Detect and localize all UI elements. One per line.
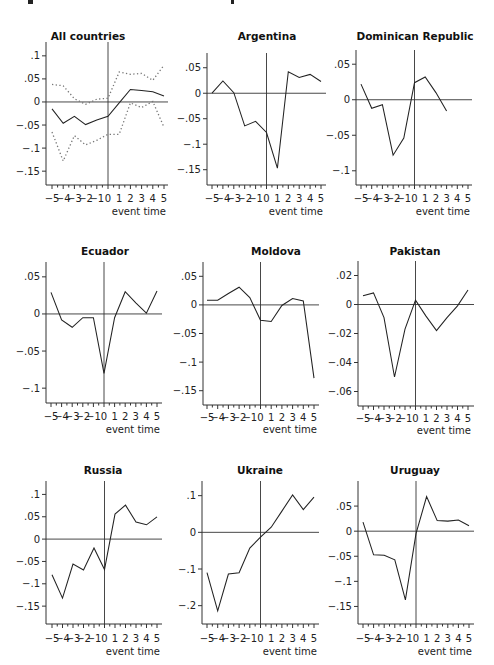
y-tick-label: .1 [30, 50, 40, 61]
panel-title: Ukraine [237, 464, 283, 476]
x-tick-label: 5 [466, 633, 472, 644]
x-tick-label: 2 [122, 411, 128, 422]
x-tick-label: −1 [242, 633, 257, 644]
x-tick-label: 1 [422, 193, 428, 204]
x-tick-label: 2 [279, 633, 285, 644]
x-axis-label: event time [269, 206, 323, 217]
x-tick-label: 5 [311, 412, 317, 423]
y-tick-label: 0 [346, 299, 352, 310]
y-tick-label: 0 [344, 94, 350, 105]
x-tick-label: 2 [127, 193, 133, 204]
x-tick-label: 2 [433, 193, 439, 204]
panel-uruguay: Uruguay.050−.05−.1−.15−5−4−3−2−1012345ev… [328, 464, 474, 657]
x-tick-label: 1 [116, 193, 122, 204]
y-tick-label: −.05 [16, 120, 40, 131]
panel-ukraine: Ukraine.10−.1−.2−5−4−3−2−1012345event ti… [178, 464, 319, 657]
x-tick-label: 0 [263, 193, 269, 204]
x-tick-label: 2 [433, 413, 439, 424]
x-tick-label: 2 [285, 193, 291, 204]
y-tick-label: −.15 [16, 601, 40, 612]
y-tick-label: .05 [24, 73, 40, 84]
y-tick-label: −.15 [16, 166, 40, 177]
x-axis-label: event time [106, 646, 160, 657]
x-tick-label: 4 [307, 193, 313, 204]
y-tick-label: −.05 [328, 551, 352, 562]
panel-ecuador: Ecuador.050−.05−.1−5−4−3−2−1012345event … [16, 245, 162, 435]
y-tick-label: −.1 [22, 143, 40, 154]
x-tick-label: 2 [279, 412, 285, 423]
panel-all-countries: All countries.1.050−.05−.1−.15−5−4−3−2−1… [16, 30, 168, 217]
x-tick-label: 1 [111, 411, 117, 422]
x-tick-label: 1 [423, 633, 429, 644]
x-tick-label: 4 [454, 193, 460, 204]
x-tick-label: 0 [413, 633, 419, 644]
panel-title: All countries [51, 30, 126, 42]
y-tick-label: −.04 [328, 357, 352, 368]
x-tick-label: 0 [257, 633, 263, 644]
x-tick-label: 3 [289, 412, 295, 423]
x-tick-label: 5 [161, 193, 167, 204]
panel-pakistan: Pakistan.020−.02−.04−.06−5−4−3−2−1012345… [328, 245, 474, 436]
x-tick-label: −1 [248, 193, 263, 204]
x-tick-label: −1 [242, 412, 257, 423]
panel-title: Argentina [238, 30, 297, 42]
x-tick-label: 0 [105, 193, 111, 204]
x-tick-label: 3 [443, 193, 449, 204]
x-tick-label: 3 [133, 633, 139, 644]
x-tick-label: 3 [445, 633, 451, 644]
x-tick-label: 3 [133, 411, 139, 422]
x-tick-label: −1 [87, 633, 102, 644]
x-tick-label: 1 [268, 412, 274, 423]
x-tick-label: 1 [274, 193, 280, 204]
x-tick-label: 0 [257, 412, 263, 423]
y-tick-label: −.1 [22, 578, 40, 589]
x-tick-label: 4 [300, 633, 306, 644]
x-tick-label: 5 [311, 633, 317, 644]
y-tick-label: −.15 [177, 164, 201, 175]
x-tick-label: 4 [150, 193, 156, 204]
x-tick-label: −1 [398, 413, 413, 424]
y-tick-label: −.05 [177, 113, 201, 124]
x-tick-label: 2 [434, 633, 440, 644]
x-tick-label: 3 [289, 633, 295, 644]
x-tick-label: 4 [300, 412, 306, 423]
x-tick-label: 5 [318, 193, 324, 204]
y-tick-label: −.06 [328, 386, 352, 397]
x-tick-label: 0 [412, 413, 418, 424]
panel-russia: Russia.1.050−.05−.1−.15−5−4−3−2−1012345e… [16, 464, 162, 657]
y-tick-label: −.02 [328, 328, 352, 339]
x-tick-label: 5 [465, 413, 471, 424]
y-tick-label: .05 [24, 511, 40, 522]
y-tick-label: 0 [191, 299, 197, 310]
y-tick-label: −.15 [328, 601, 352, 612]
y-tick-label: −.15 [173, 385, 197, 396]
y-tick-label: 0 [34, 308, 40, 319]
y-tick-label: .05 [336, 501, 352, 512]
x-tick-label: 4 [143, 633, 149, 644]
x-tick-label: 5 [154, 411, 160, 422]
panel-moldova: Moldova.050−.05−.1−.15−5−4−3−2−1012345ev… [173, 245, 319, 435]
y-tick-label: .05 [181, 271, 197, 282]
x-axis-label: event time [112, 206, 166, 217]
x-axis-label: event time [263, 424, 317, 435]
y-tick-label: −.1 [183, 139, 201, 150]
y-tick-label: −.05 [173, 328, 197, 339]
panel-title: Moldova [251, 245, 301, 257]
x-tick-label: 5 [154, 633, 160, 644]
x-tick-label: 3 [138, 193, 144, 204]
x-tick-label: 1 [423, 413, 429, 424]
y-tick-label: −.05 [16, 556, 40, 567]
panel-title: Pakistan [390, 245, 441, 257]
x-tick-label: −1 [89, 193, 104, 204]
x-tick-label: −1 [86, 411, 101, 422]
panel-title: Dominican Republic [356, 30, 473, 42]
y-tick-label: −.1 [178, 564, 196, 575]
panel-argentina: Argentina.050−.05−.1−.15−5−4−3−2−1012345… [177, 30, 326, 217]
figure-small-multiples: All countries.1.050−.05−.1−.15−5−4−3−2−1… [0, 0, 494, 665]
panel-dominican-republic: Dominican Republic.050−.05−.1−5−4−3−2−10… [326, 30, 474, 217]
x-tick-label: −1 [396, 193, 411, 204]
x-tick-label: 0 [411, 193, 417, 204]
y-tick-label: −.1 [334, 576, 352, 587]
y-tick-label: 0 [34, 534, 40, 545]
x-tick-label: −1 [398, 633, 413, 644]
